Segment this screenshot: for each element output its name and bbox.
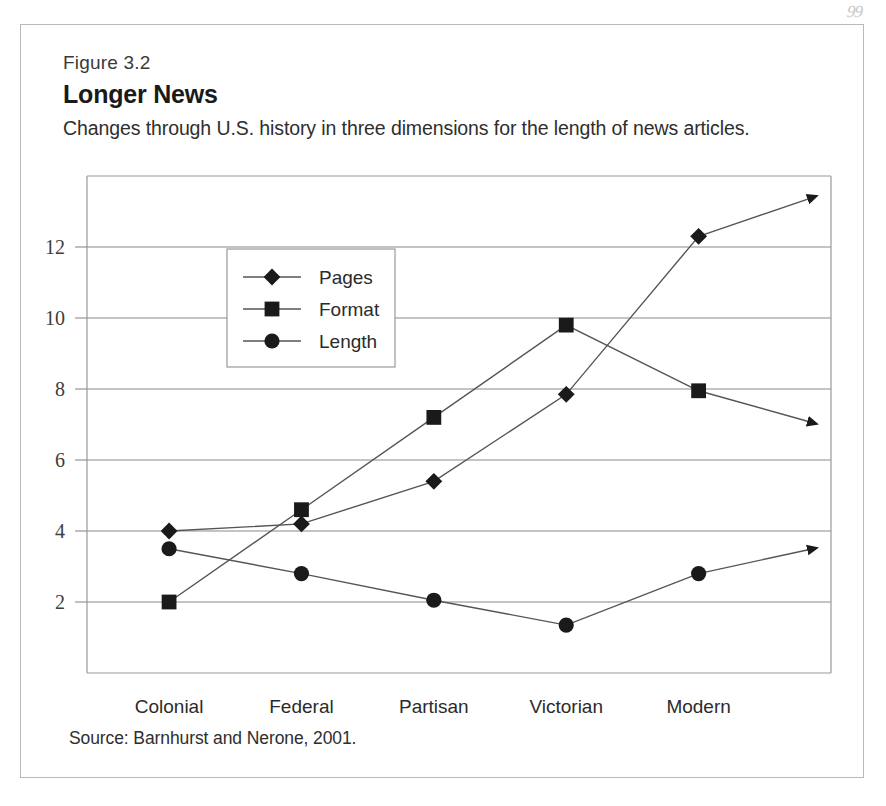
chart-area: 24681012 ColonialFederalPartisanVictoria… bbox=[21, 25, 865, 779]
series-arrow bbox=[699, 391, 813, 423]
legend-label-length: Length bbox=[319, 331, 377, 352]
page-number-artifact: 99 bbox=[845, 2, 864, 22]
data-point-circle bbox=[264, 333, 279, 348]
data-point-diamond bbox=[558, 386, 575, 403]
data-point-square bbox=[294, 502, 309, 517]
data-point-circle bbox=[161, 541, 176, 556]
data-point-circle bbox=[559, 617, 574, 632]
y-tick-label: 12 bbox=[45, 236, 65, 258]
data-point-diamond bbox=[161, 523, 178, 540]
data-point-square bbox=[265, 302, 280, 317]
data-point-diamond bbox=[425, 473, 442, 490]
x-category-label: Federal bbox=[269, 696, 333, 717]
data-point-circle bbox=[691, 566, 706, 581]
y-tick-label: 8 bbox=[55, 378, 65, 400]
y-tick-label: 4 bbox=[55, 520, 65, 542]
series-arrow bbox=[699, 549, 813, 574]
legend-label-pages: Pages bbox=[319, 267, 373, 288]
data-point-diamond bbox=[690, 228, 707, 245]
chart-legend: PagesFormatLength bbox=[227, 249, 395, 367]
x-category-label: Victorian bbox=[529, 696, 603, 717]
data-point-circle bbox=[294, 566, 309, 581]
x-category-label: Partisan bbox=[399, 696, 469, 717]
figure-card: Figure 3.2 Longer News Changes through U… bbox=[20, 24, 864, 778]
legend-label-format: Format bbox=[319, 299, 380, 320]
gridlines bbox=[87, 247, 831, 602]
series-arrow bbox=[699, 197, 813, 236]
data-point-square bbox=[426, 410, 441, 425]
series-line bbox=[169, 549, 699, 625]
x-category-label: Colonial bbox=[135, 696, 204, 717]
source-note: Source: Barnhurst and Nerone, 2001. bbox=[69, 728, 356, 749]
data-point-square bbox=[162, 595, 177, 610]
data-point-square bbox=[691, 383, 706, 398]
data-point-square bbox=[559, 318, 574, 333]
x-category-label: Modern bbox=[666, 696, 730, 717]
line-chart: 24681012 ColonialFederalPartisanVictoria… bbox=[21, 25, 865, 779]
data-point-diamond bbox=[293, 516, 310, 533]
y-tick-label: 6 bbox=[55, 449, 65, 471]
x-axis-category-labels: ColonialFederalPartisanVictorianModern bbox=[135, 696, 731, 717]
y-axis-tick-labels: 24681012 bbox=[45, 236, 87, 613]
y-tick-label: 10 bbox=[45, 307, 65, 329]
y-tick-label: 2 bbox=[55, 591, 65, 613]
series-length bbox=[161, 541, 813, 633]
data-point-circle bbox=[426, 593, 441, 608]
plot-frame bbox=[87, 176, 831, 673]
